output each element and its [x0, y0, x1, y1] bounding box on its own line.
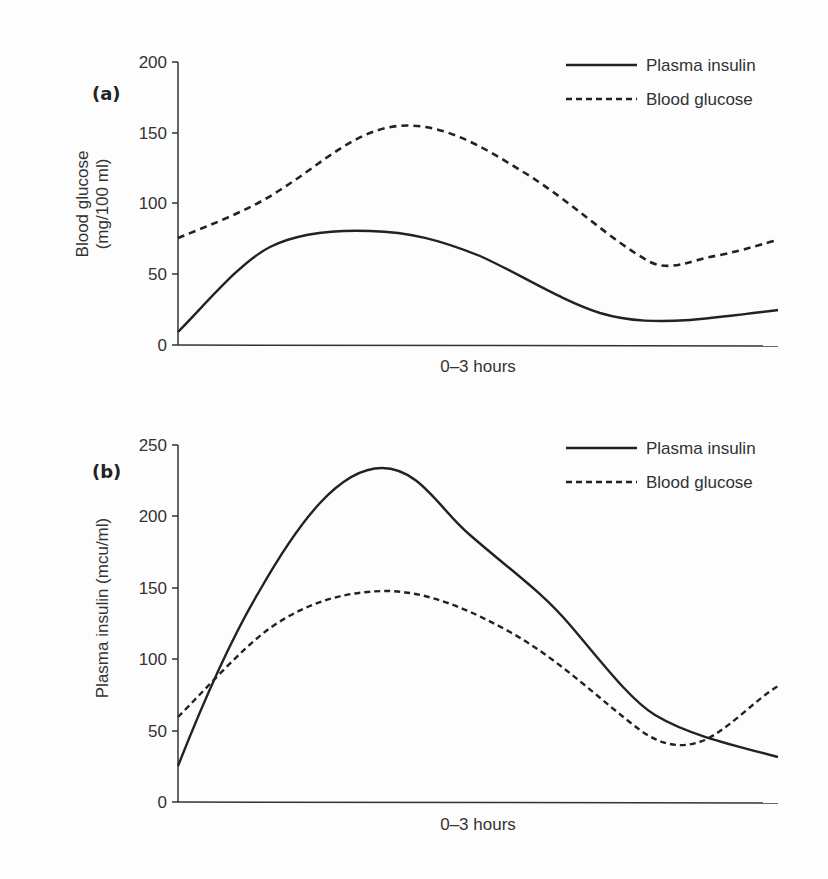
panel-b-y-axis-title: Plasma insulin (mcu/ml): [93, 518, 112, 698]
tick-label: 150: [139, 579, 167, 598]
panel-a-plasma-insulin-line: [178, 231, 778, 332]
panel-b-legend: Plasma insulin Blood glucose: [566, 439, 756, 492]
panel-b-blood-glucose-line: [178, 591, 778, 745]
panel-a-tick-labels: 0 50 100 150 200: [139, 53, 167, 355]
tick-label: 100: [139, 194, 167, 213]
panel-a-x-axis: [178, 345, 778, 346]
panel-b-x-axis: [178, 802, 778, 803]
legend-label-blood-glucose: Blood glucose: [646, 90, 753, 109]
tick-label: 50: [148, 722, 167, 741]
tick-label: 200: [139, 53, 167, 72]
tick-label: 150: [139, 124, 167, 143]
tick-label: 50: [148, 265, 167, 284]
panel-a-blood-glucose-line: [178, 126, 778, 266]
legend-label-blood-glucose: Blood glucose: [646, 473, 753, 492]
tick-label: 100: [139, 650, 167, 669]
tick-label: 0: [158, 336, 167, 355]
legend-label-plasma-insulin: Plasma insulin: [646, 56, 756, 75]
panel-b-tick-marks: [172, 445, 178, 802]
panel-b-x-axis-title: 0–3 hours: [440, 815, 516, 834]
panel-b: (b) 0 50 100 150 200 250 Plasma insulin …: [92, 436, 778, 834]
panel-a-legend: Plasma insulin Blood glucose: [566, 56, 756, 109]
figure: (a) 0 50 100 150 200 Blood glucose (mg/1…: [0, 0, 828, 879]
tick-label: 0: [158, 793, 167, 812]
panel-a-x-axis-title: 0–3 hours: [440, 357, 516, 376]
panel-a-y-axis-title-line1: Blood glucose: [73, 151, 92, 258]
panel-a-tick-marks: [172, 62, 178, 345]
panel-b-tick-labels: 0 50 100 150 200 250: [139, 436, 167, 812]
panel-a: (a) 0 50 100 150 200 Blood glucose (mg/1…: [73, 53, 778, 376]
panel-a-y-axis-title-line2: (mg/100 ml): [93, 159, 112, 250]
legend-label-plasma-insulin: Plasma insulin: [646, 439, 756, 458]
panel-b-plasma-insulin-line: [178, 468, 778, 766]
panel-a-label: (a): [92, 83, 121, 104]
panel-b-label: (b): [92, 461, 121, 482]
tick-label: 200: [139, 507, 167, 526]
tick-label: 250: [139, 436, 167, 455]
